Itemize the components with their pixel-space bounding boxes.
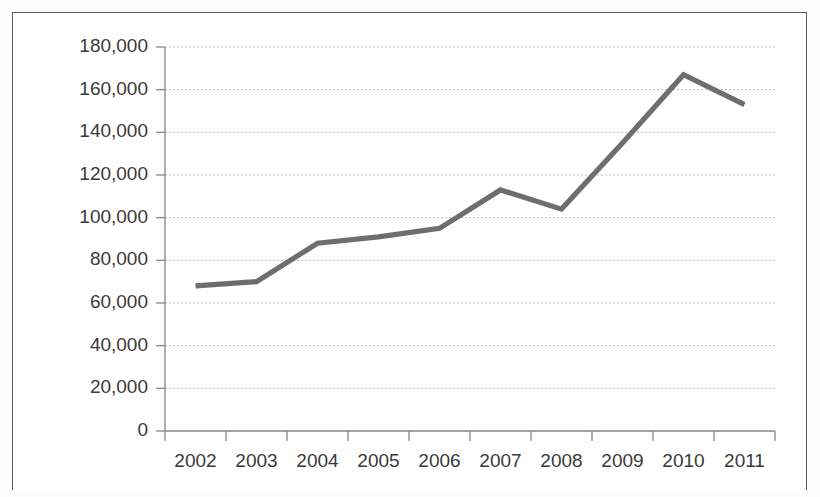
line-chart: 020,00040,00060,00080,000100,000120,0001… xyxy=(0,0,820,497)
x-axis-tick-label: 2007 xyxy=(479,450,521,471)
x-axis-tick-label: 2008 xyxy=(540,450,582,471)
y-axis-tick-label: 100,000 xyxy=(79,206,148,227)
x-axis-tick-label: 2005 xyxy=(357,450,399,471)
data-series-line xyxy=(196,75,745,286)
data-series-group xyxy=(196,75,745,286)
y-axis-tick-label: 160,000 xyxy=(79,78,148,99)
y-axis-tick-label: 180,000 xyxy=(79,35,148,56)
y-tick-labels-group: 020,00040,00060,00080,000100,000120,0001… xyxy=(79,35,148,440)
x-tick-labels-group: 2002200320042005200620072008200920102011 xyxy=(174,450,765,471)
y-axis-tick-label: 0 xyxy=(137,419,148,440)
x-axis-tick-label: 2009 xyxy=(601,450,643,471)
y-axis-tick-label: 80,000 xyxy=(90,248,148,269)
y-axis-tick-label: 140,000 xyxy=(79,120,148,141)
x-axis-tick-label: 2011 xyxy=(724,450,765,471)
x-axis-tick-label: 2004 xyxy=(296,450,339,471)
gridlines-group xyxy=(165,47,775,431)
y-axis-group xyxy=(156,47,165,431)
x-axis-tick-label: 2006 xyxy=(418,450,460,471)
x-axis-tick-label: 2002 xyxy=(174,450,216,471)
y-axis-tick-label: 20,000 xyxy=(90,376,148,397)
y-axis-tick-label: 120,000 xyxy=(79,163,148,184)
x-axis-tick-label: 2010 xyxy=(662,450,704,471)
chart-page: 020,00040,00060,00080,000100,000120,0001… xyxy=(0,0,820,497)
x-axis-group xyxy=(165,431,775,441)
x-axis-tick-label: 2003 xyxy=(235,450,277,471)
y-axis-tick-label: 40,000 xyxy=(90,334,148,355)
chart-svg: 020,00040,00060,00080,000100,000120,0001… xyxy=(0,0,820,497)
y-axis-tick-label: 60,000 xyxy=(90,291,148,312)
